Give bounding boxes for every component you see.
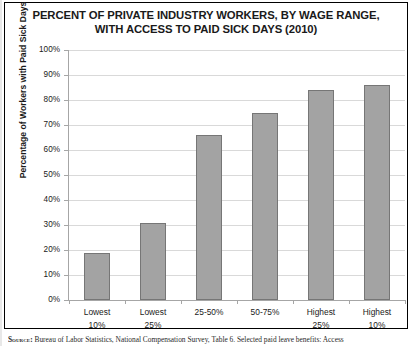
bar-slot-50-75 (237, 50, 293, 300)
y-tick-label-100: 100% (39, 45, 60, 54)
source-note-lead: Source: (8, 335, 33, 344)
x-label-line-1: Lowest (69, 306, 125, 319)
y-tick-label-20: 20% (44, 245, 60, 254)
y-tick-label-40: 40% (44, 195, 60, 204)
x-label-50-75: 50-75% (237, 306, 293, 319)
x-label-lowest-10: Lowest 10% (69, 306, 125, 331)
y-tick-label-80: 80% (44, 95, 60, 104)
x-tick (349, 300, 350, 304)
bar-25-50[interactable] (196, 135, 222, 300)
x-label-line-2: 10% (349, 319, 405, 332)
bar-slot-25-50 (181, 50, 237, 300)
x-label-line-1: Highest (293, 306, 349, 319)
x-tick (237, 300, 238, 304)
bar-series (69, 50, 405, 300)
x-label-25-50: 25-50% (181, 306, 237, 319)
page-left-edge (0, 0, 2, 346)
x-axis-labels: Lowest 10% Lowest 25% 25-50% 50-75% High… (69, 306, 403, 336)
y-tick-label-50: 50% (44, 170, 60, 179)
x-tick (405, 300, 406, 304)
x-tick (125, 300, 126, 304)
x-label-line-1: Highest (349, 306, 405, 319)
bar-slot-highest-10 (349, 50, 405, 300)
bar-highest-25[interactable] (308, 90, 334, 300)
bar-lowest-25[interactable] (140, 223, 166, 301)
chart-figure: PERCENT OF PRIVATE INDUSTRY WORKERS, BY … (4, 2, 408, 329)
x-label-line-2: 25% (125, 319, 181, 332)
x-label-highest-25: Highest 25% (293, 306, 349, 331)
y-tick-label-90: 90% (44, 70, 60, 79)
bar-lowest-10[interactable] (84, 253, 110, 301)
x-tick (69, 300, 70, 304)
x-label-line-1: Lowest (125, 306, 181, 319)
y-tick-label-60: 60% (44, 145, 60, 154)
bar-slot-lowest-10 (69, 50, 125, 300)
x-tick (293, 300, 294, 304)
x-tick (181, 300, 182, 304)
x-label-line-2: 10% (69, 319, 125, 332)
chart-title-line-1: PERCENT OF PRIVATE INDUSTRY WORKERS, BY … (5, 8, 407, 22)
bar-slot-lowest-25 (125, 50, 181, 300)
x-label-line-2: 25% (293, 319, 349, 332)
x-label-lowest-25: Lowest 25% (125, 306, 181, 331)
x-label-highest-10: Highest 10% (349, 306, 405, 331)
x-axis-tick-marks (69, 300, 405, 304)
y-tick-label-70: 70% (44, 120, 60, 129)
source-note: Source: Bureau of Labor Statistics, Nati… (8, 335, 412, 344)
y-tick-label-30: 30% (44, 220, 60, 229)
bar-slot-highest-25 (293, 50, 349, 300)
bar-highest-10[interactable] (364, 85, 390, 300)
y-tick-label-10: 10% (44, 270, 60, 279)
y-axis-title: Percentage of Workers with Paid Sick Day… (18, 0, 28, 190)
chart-title-line-2: WITH ACCESS TO PAID SICK DAYS (2010) (5, 22, 407, 36)
chart-title: PERCENT OF PRIVATE INDUSTRY WORKERS, BY … (5, 8, 407, 36)
plot-area: 100% 90% 80% 70% 60% 50% (64, 50, 405, 300)
x-label-line-1: 25-50% (181, 306, 237, 319)
source-note-text: Bureau of Labor Statistics, National Com… (33, 335, 344, 344)
x-label-line-1: 50-75% (237, 306, 293, 319)
y-tick-label-0: 0% (48, 295, 60, 304)
bar-50-75[interactable] (252, 113, 278, 301)
